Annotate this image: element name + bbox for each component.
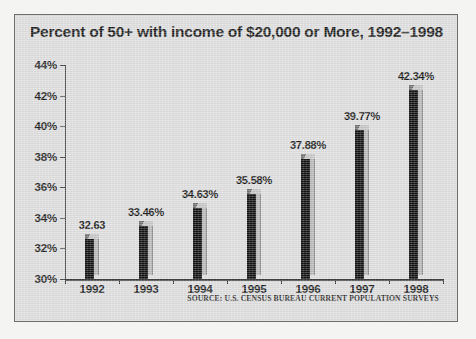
y-axis-tick [60,218,65,219]
y-axis-label: 36% [35,181,57,193]
bar-value-label: 39.77% [344,110,380,122]
x-axis-tick [173,279,174,284]
bar-value-label: 34.63% [182,188,218,200]
bar-front-face [409,90,418,279]
plot-area: 30%32%34%36%38%40%42%44% 199219931994199… [65,65,443,279]
y-axis-tick [60,96,65,97]
x-axis-tick [227,279,228,284]
x-axis-line [65,279,443,281]
bar-value-label: 33.46% [128,206,164,218]
bar-front-face [247,194,256,279]
bar-top-face [301,154,315,159]
x-axis-label-1993: 1993 [134,283,159,295]
bar-value-label: 35.58% [236,174,272,186]
y-axis-tick [60,157,65,158]
y-axis-label: 38% [35,151,57,163]
x-axis-tick [335,279,336,284]
bar-side-face [364,126,369,275]
y-axis-tick [60,65,65,66]
bar-front-face [85,239,94,279]
chart-title: Percent of 50+ with income of $20,000 or… [30,23,443,41]
x-axis-tick [65,279,66,284]
bar-front-face [301,159,310,279]
chart-panel: Percent of 50+ with income of $20,000 or… [14,14,458,322]
y-axis-label: 44% [35,59,57,71]
bar-front-face [355,130,364,279]
bar-side-face [256,190,261,275]
x-axis-tick [389,279,390,284]
bar-value-label: 42.34% [398,70,434,82]
bar-value-label: 37.88% [290,139,326,151]
bar-value-label: 32.63 [79,219,106,231]
x-axis-tick [119,279,120,284]
source-note: SOURCE: U.S. CENSUS BUREAU CURRENT POPUL… [187,294,439,303]
bar-front-face [193,208,202,279]
y-axis-tick [60,248,65,249]
bar-top-face [85,234,99,239]
figure-canvas: Percent of 50+ with income of $20,000 or… [0,0,476,339]
bar-side-face [418,86,423,275]
bar-side-face [202,204,207,275]
y-axis-label: 32% [35,242,57,254]
bar-front-face [139,226,148,279]
bar-side-face [148,222,153,275]
x-axis-label-1992: 1992 [80,283,105,295]
bar-top-face [247,189,261,194]
y-axis-label: 42% [35,90,57,102]
y-axis-label: 34% [35,212,57,224]
bar-side-face [94,235,99,275]
y-axis-label: 40% [35,120,57,132]
y-axis-label: 30% [35,273,57,285]
y-axis-line [65,65,66,279]
bar-side-face [310,155,315,275]
y-axis-tick [60,126,65,127]
bar-top-face [139,221,153,226]
x-axis-tick [281,279,282,284]
bar-top-face [409,85,423,90]
y-axis-tick [60,187,65,188]
bar-top-face [193,203,207,208]
x-axis-tick [443,279,444,284]
bar-top-face [355,125,369,130]
